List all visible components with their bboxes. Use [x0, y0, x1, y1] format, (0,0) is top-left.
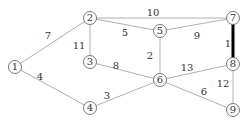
node-label: 7 — [230, 12, 236, 23]
edge-weight-label: 11 — [73, 40, 86, 51]
node-1: 1 — [9, 61, 22, 74]
node-3: 3 — [84, 56, 97, 69]
edge-4-6 — [90, 80, 160, 108]
edge-weight-label: 6 — [201, 86, 207, 97]
node-7: 7 — [227, 12, 240, 25]
node-6: 6 — [154, 74, 167, 87]
node-8: 8 — [227, 58, 240, 71]
edge-weight-label: 9 — [194, 30, 200, 41]
node-9: 9 — [227, 104, 240, 117]
edge-3-6 — [90, 62, 160, 80]
node-label: 5 — [157, 25, 163, 36]
edge-1-4 — [15, 67, 90, 108]
node-4: 4 — [84, 102, 97, 115]
edge-weight-label: 3 — [104, 90, 110, 101]
weighted-graph: 74115108329113612 123456789 — [0, 0, 248, 121]
node-label: 9 — [230, 104, 236, 115]
node-2: 2 — [84, 12, 97, 25]
edge-weights-layer: 74115108329113612 — [37, 7, 231, 101]
node-label: 1 — [12, 61, 18, 72]
edge-weight-label: 7 — [45, 30, 51, 41]
edge-weight-label: 13 — [181, 62, 194, 73]
node-label: 2 — [87, 12, 93, 23]
edge-weight-label: 1 — [225, 38, 231, 49]
edge-weight-label: 12 — [217, 78, 230, 89]
node-label: 8 — [230, 58, 236, 69]
edge-weight-label: 5 — [122, 27, 128, 38]
edge-weight-label: 10 — [147, 7, 160, 18]
node-5: 5 — [154, 25, 167, 38]
edge-weight-label: 8 — [113, 60, 119, 71]
node-label: 6 — [157, 74, 163, 85]
node-label: 3 — [87, 56, 93, 67]
node-label: 4 — [87, 102, 93, 113]
edge-weight-label: 4 — [37, 71, 43, 82]
edge-weight-label: 2 — [147, 50, 153, 61]
